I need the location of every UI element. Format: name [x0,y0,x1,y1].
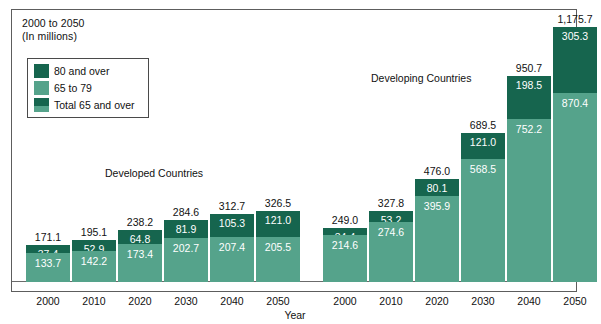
bar-segment-65-to-79: 870.4 [553,93,597,282]
bar-segment-80-and-over: 121.0 [256,211,300,237]
bar-segment-value-65-to-79: 568.5 [461,163,505,175]
plot-area: 171.137.4133.7195.152.9142.2238.264.8173… [12,10,576,282]
bar-segment-80-and-over: 81.9 [164,220,208,238]
bar-segment-80-and-over: 64.8 [118,230,162,244]
bar-segment-value-80-and-over: 121.0 [256,214,300,226]
bar-segment-65-to-79: 207.4 [210,237,254,282]
x-tick-label-developing-countries-2050: 2050 [553,295,597,307]
bar-segment-65-to-79: 752.2 [507,119,551,282]
bar-segment-value-80-and-over: 305.3 [553,30,597,42]
bar-segment-80-and-over: 53.2 [369,211,413,223]
bar-segment-value-65-to-79: 202.7 [164,242,208,254]
bar-developed-countries-2000: 171.137.4133.7 [26,245,70,282]
bar-segment-value-65-to-79: 142.2 [72,255,116,267]
bar-segment-80-and-over: 34.4 [323,228,367,235]
x-tick-label-developing-countries-2040: 2040 [507,295,551,307]
bar-segment-65-to-79: 202.7 [164,238,208,282]
x-axis-title: Year [0,309,590,321]
bar-segment-value-80-and-over: 105.3 [210,217,254,229]
bar-developed-countries-2050: 326.5121.0205.5 [256,211,300,282]
bar-segment-80-and-over: 52.9 [72,240,116,251]
bar-total-label: 326.5 [244,197,312,209]
bar-segment-65-to-79: 205.5 [256,237,300,282]
x-tick-label-developed-countries-2030: 2030 [164,295,208,307]
x-tick-label-developing-countries-2020: 2020 [415,295,459,307]
x-tick-label-developed-countries-2020: 2020 [118,295,162,307]
bar-segment-value-65-to-79: 133.7 [26,257,70,269]
bar-segment-value-80-and-over: 80.1 [415,182,459,194]
bar-developed-countries-2010: 195.152.9142.2 [72,240,116,282]
bar-segment-80-and-over: 121.0 [461,133,505,159]
bar-segment-value-65-to-79: 870.4 [553,97,597,109]
bar-segment-80-and-over: 37.4 [26,245,70,253]
x-tick-label-developed-countries-2000: 2000 [26,295,70,307]
x-tick-label-developing-countries-2010: 2010 [369,295,413,307]
bar-developing-countries-2020: 476.080.1395.9 [415,179,459,282]
x-tick-label-developing-countries-2000: 2000 [323,295,367,307]
bar-segment-65-to-79: 214.6 [323,235,367,282]
bar-developing-countries-2030: 689.5121.0568.5 [461,133,505,282]
bar-developing-countries-2050: 1,175.7305.3870.4 [553,27,597,282]
bar-segment-value-65-to-79: 214.6 [323,239,367,251]
bar-developing-countries-2000: 249.034.4214.6 [323,228,367,282]
x-tick-label-developing-countries-2030: 2030 [461,295,505,307]
bar-segment-65-to-79: 173.4 [118,244,162,282]
bar-segment-65-to-79: 568.5 [461,159,505,282]
bar-developed-countries-2030: 284.681.9202.7 [164,220,208,282]
bar-segment-value-80-and-over: 121.0 [461,136,505,148]
bar-segment-80-and-over: 105.3 [210,214,254,237]
bar-developing-countries-2010: 327.853.2274.6 [369,211,413,282]
bar-developed-countries-2040: 312.7105.3207.4 [210,214,254,282]
bar-segment-value-65-to-79: 207.4 [210,241,254,253]
bar-segment-65-to-79: 274.6 [369,222,413,282]
bar-segment-value-80-and-over: 198.5 [507,79,551,91]
bar-segment-value-65-to-79: 173.4 [118,248,162,260]
bar-segment-65-to-79: 133.7 [26,253,70,282]
bar-developed-countries-2020: 238.264.8173.4 [118,230,162,282]
bar-segment-value-65-to-79: 395.9 [415,200,459,212]
bar-segment-65-to-79: 395.9 [415,196,459,282]
x-tick-label-developed-countries-2040: 2040 [210,295,254,307]
bar-segment-value-65-to-79: 752.2 [507,123,551,135]
bar-segment-value-65-to-79: 205.5 [256,241,300,253]
x-tick-label-developed-countries-2050: 2050 [256,295,300,307]
bar-total-label: 1,175.7 [541,13,601,25]
bar-segment-80-and-over: 80.1 [415,179,459,196]
bar-developing-countries-2040: 950.7198.5752.2 [507,76,551,282]
bar-segment-65-to-79: 142.2 [72,251,116,282]
bar-segment-value-80-and-over: 81.9 [164,223,208,235]
x-tick-label-developed-countries-2010: 2010 [72,295,116,307]
bar-segment-80-and-over: 198.5 [507,76,551,119]
bar-segment-value-65-to-79: 274.6 [369,226,413,238]
bar-segment-80-and-over: 305.3 [553,27,597,93]
